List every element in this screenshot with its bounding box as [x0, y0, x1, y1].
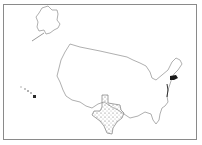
us-map [0, 0, 202, 145]
region-northeast-highlight [167, 75, 178, 97]
region-texas [92, 95, 124, 134]
region-alaska [32, 6, 60, 41]
region-hawaii [20, 86, 36, 98]
